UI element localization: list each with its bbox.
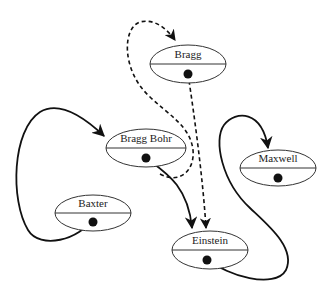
node-label: Baxter — [78, 197, 108, 209]
node-label: Einstein — [192, 234, 229, 246]
node-einstein[interactable]: Einstein — [172, 231, 248, 269]
node-maxwell[interactable]: Maxwell — [240, 150, 316, 186]
pointer-dot-icon — [184, 70, 193, 79]
reference-diagram: Bragg Bragg Bohr Maxwell Baxter Einstein — [0, 0, 334, 293]
node-label: Bragg Bohr — [120, 132, 172, 144]
node-bragg[interactable]: Bragg — [150, 45, 226, 83]
edge-bragg-bohr-to-einstein — [146, 158, 192, 228]
node-baxter[interactable]: Baxter — [55, 195, 131, 231]
pointer-dot-icon — [89, 218, 98, 227]
pointer-dot-icon — [142, 154, 151, 163]
pointer-dot-icon — [203, 256, 212, 265]
node-bragg-bohr[interactable]: Bragg Bohr — [106, 129, 186, 167]
pointer-dot-icon — [274, 174, 283, 183]
node-label: Bragg — [175, 48, 202, 60]
node-label: Maxwell — [258, 152, 297, 164]
edge-bragg-to-einstein — [188, 74, 206, 228]
